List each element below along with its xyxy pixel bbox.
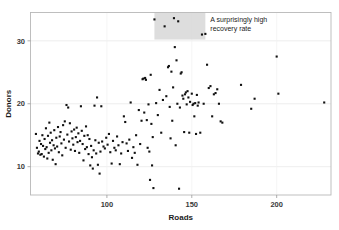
data-point — [108, 133, 110, 135]
data-point — [38, 151, 40, 153]
data-point — [76, 127, 78, 129]
data-point — [276, 56, 278, 58]
data-point — [146, 119, 148, 121]
data-point — [211, 115, 213, 117]
data-point — [169, 106, 171, 108]
data-point — [115, 149, 117, 151]
data-point — [151, 164, 153, 166]
x-tick-label-150: 150 — [186, 200, 199, 209]
data-point — [96, 96, 98, 98]
data-point — [37, 152, 39, 154]
chart-canvas: 102030100150200RoadsDonorsA surprisingly… — [0, 0, 339, 230]
data-point — [126, 142, 128, 144]
data-point — [102, 145, 104, 147]
data-point — [191, 93, 193, 95]
data-point — [182, 98, 184, 100]
annotation-text-line-1: A surprisingly high — [210, 16, 267, 24]
data-point — [55, 137, 57, 139]
data-point — [186, 90, 188, 92]
data-point — [181, 71, 183, 73]
data-point — [57, 126, 59, 128]
data-point — [40, 143, 42, 145]
data-point — [71, 137, 73, 139]
data-point — [116, 135, 118, 137]
data-point — [132, 146, 134, 148]
data-point — [64, 120, 66, 122]
data-point — [186, 103, 188, 105]
data-point — [140, 120, 142, 122]
data-point — [203, 103, 205, 105]
data-point — [179, 106, 181, 108]
data-point — [60, 131, 62, 133]
data-point — [147, 147, 149, 149]
data-point — [177, 20, 179, 22]
data-point — [160, 132, 162, 134]
data-point — [104, 147, 106, 149]
data-point — [85, 125, 87, 127]
data-point — [65, 104, 67, 106]
data-point — [193, 115, 195, 117]
data-point — [172, 86, 174, 88]
data-point — [53, 129, 55, 131]
data-point — [38, 140, 40, 142]
data-point — [199, 132, 201, 134]
data-point — [79, 140, 81, 142]
data-point — [165, 95, 167, 97]
y-axis-title: Donors — [4, 89, 13, 118]
data-point — [66, 134, 68, 136]
data-point — [131, 157, 133, 159]
data-point — [189, 101, 191, 103]
data-point — [50, 149, 52, 151]
data-point — [92, 168, 94, 170]
data-point — [134, 152, 136, 154]
data-point — [99, 151, 101, 153]
data-point — [250, 108, 252, 110]
data-point — [198, 101, 200, 103]
data-point — [76, 141, 78, 143]
data-point — [52, 159, 54, 161]
data-point — [147, 103, 149, 105]
data-point — [209, 85, 211, 87]
data-point — [97, 164, 99, 166]
y-tick-label-10: 10 — [17, 162, 25, 171]
data-point — [90, 145, 92, 147]
data-point — [91, 156, 93, 158]
annotation-text-line-2: recovery rate — [210, 25, 251, 33]
data-point — [41, 153, 43, 155]
data-point — [216, 88, 218, 90]
data-point — [44, 138, 46, 140]
data-point — [46, 146, 48, 148]
data-point — [100, 105, 102, 107]
data-point — [139, 143, 141, 145]
data-point — [221, 122, 223, 124]
y-tick-label-30: 30 — [17, 37, 25, 46]
data-point — [120, 152, 122, 154]
data-point — [204, 33, 206, 35]
data-point — [208, 87, 210, 89]
data-point — [164, 25, 166, 27]
data-point — [51, 139, 53, 141]
data-point — [170, 71, 172, 73]
data-point — [61, 154, 63, 156]
data-point — [158, 89, 160, 91]
data-point — [150, 123, 152, 125]
scatter-chart: 102030100150200RoadsDonorsA surprisingly… — [0, 0, 339, 230]
data-point — [107, 144, 109, 146]
data-point — [178, 188, 180, 190]
data-point — [62, 124, 64, 126]
data-point — [65, 147, 67, 149]
data-point — [152, 187, 154, 189]
data-point — [75, 136, 77, 138]
data-point — [77, 132, 79, 134]
data-point — [171, 120, 173, 122]
data-point — [206, 64, 208, 66]
annotation-highlight-box — [154, 13, 205, 40]
data-point — [59, 135, 61, 137]
data-point — [93, 105, 95, 107]
data-point — [63, 139, 65, 141]
data-point — [197, 105, 199, 107]
data-point — [176, 103, 178, 105]
data-point — [87, 134, 89, 136]
data-point — [35, 133, 37, 135]
data-point — [170, 137, 172, 139]
